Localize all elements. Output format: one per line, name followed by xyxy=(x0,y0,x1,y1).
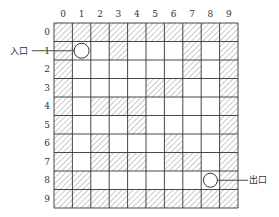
path-cell xyxy=(201,153,219,172)
row-label: 5 xyxy=(44,120,50,130)
wall-cell xyxy=(109,97,127,116)
path-cell xyxy=(72,60,90,79)
wall-cell xyxy=(164,134,182,153)
wall-cell xyxy=(109,153,127,172)
column-label: 1 xyxy=(79,9,85,19)
wall-cell xyxy=(220,190,238,209)
path-cell xyxy=(201,97,219,116)
path-cell xyxy=(146,42,164,61)
row-label: 6 xyxy=(44,138,50,148)
column-label: 6 xyxy=(171,9,177,19)
row-label: 3 xyxy=(44,83,50,93)
wall-cell xyxy=(109,23,127,42)
row-label: 8 xyxy=(44,175,50,185)
path-cell xyxy=(128,60,146,79)
column-label: 7 xyxy=(189,9,195,19)
wall-cell xyxy=(164,190,182,209)
path-cell xyxy=(128,171,146,190)
path-cell xyxy=(164,116,182,135)
wall-cell xyxy=(220,97,238,116)
path-cell xyxy=(201,42,219,61)
maze-diagram: 0123456789 0123456789 入口出口 xyxy=(0,0,279,217)
entrance-label: 入口 xyxy=(10,46,28,56)
wall-cell xyxy=(128,190,146,209)
path-cell xyxy=(146,171,164,190)
wall-cell xyxy=(54,60,72,79)
column-label: 8 xyxy=(208,9,214,19)
row-label: 9 xyxy=(44,194,50,204)
row-labels: 0123456789 xyxy=(44,27,50,204)
wall-cell xyxy=(72,23,90,42)
path-cell xyxy=(91,116,109,135)
path-cell xyxy=(164,60,182,79)
path-cell xyxy=(183,97,201,116)
wall-cell xyxy=(146,79,164,98)
path-cell xyxy=(146,97,164,116)
wall-cell xyxy=(183,42,201,61)
wall-cell xyxy=(54,23,72,42)
path-cell xyxy=(164,42,182,61)
wall-cell xyxy=(183,60,201,79)
wall-cell xyxy=(72,190,90,209)
wall-cell xyxy=(128,23,146,42)
path-cell xyxy=(72,97,90,116)
wall-cell xyxy=(220,116,238,135)
path-cell xyxy=(183,79,201,98)
path-cell xyxy=(183,134,201,153)
wall-cell xyxy=(91,134,109,153)
column-labels: 0123456789 xyxy=(60,9,232,19)
column-label: 2 xyxy=(97,9,103,19)
path-cell xyxy=(128,134,146,153)
wall-cell xyxy=(91,97,109,116)
wall-cell xyxy=(220,23,238,42)
path-cell xyxy=(91,171,109,190)
path-cell xyxy=(146,134,164,153)
path-cell xyxy=(72,153,90,172)
wall-cell xyxy=(183,23,201,42)
entrance-marker xyxy=(74,43,89,58)
path-cell xyxy=(146,60,164,79)
path-cell xyxy=(183,116,201,135)
wall-cell xyxy=(220,153,238,172)
row-label: 2 xyxy=(44,64,50,74)
path-cell xyxy=(201,134,219,153)
path-cell xyxy=(109,171,127,190)
wall-cell xyxy=(201,23,219,42)
wall-cell xyxy=(146,190,164,209)
path-cell xyxy=(201,60,219,79)
path-cell xyxy=(109,116,127,135)
wall-cell xyxy=(54,190,72,209)
path-cell xyxy=(201,116,219,135)
path-cell xyxy=(109,134,127,153)
wall-cell xyxy=(109,190,127,209)
wall-cell xyxy=(183,153,201,172)
path-cell xyxy=(72,116,90,135)
wall-cell xyxy=(146,23,164,42)
wall-cell xyxy=(128,116,146,135)
path-cell xyxy=(146,116,164,135)
path-cell xyxy=(109,60,127,79)
path-cell xyxy=(91,42,109,61)
path-cell xyxy=(91,60,109,79)
path-cell xyxy=(72,134,90,153)
path-cell xyxy=(109,79,127,98)
wall-cell xyxy=(201,190,219,209)
wall-cell xyxy=(91,153,109,172)
column-label: 5 xyxy=(152,9,158,19)
path-cell xyxy=(164,171,182,190)
wall-cell xyxy=(220,42,238,61)
path-cell xyxy=(91,79,109,98)
path-cell xyxy=(128,79,146,98)
column-label: 0 xyxy=(60,9,66,19)
wall-cell xyxy=(164,23,182,42)
path-cell xyxy=(146,153,164,172)
wall-cell xyxy=(220,60,238,79)
path-cell xyxy=(128,42,146,61)
wall-cell xyxy=(128,153,146,172)
wall-cell xyxy=(220,134,238,153)
wall-cell xyxy=(54,171,72,190)
row-label: 7 xyxy=(44,157,50,167)
path-cell xyxy=(164,97,182,116)
exit-label: 出口 xyxy=(249,174,267,185)
wall-cell xyxy=(128,97,146,116)
